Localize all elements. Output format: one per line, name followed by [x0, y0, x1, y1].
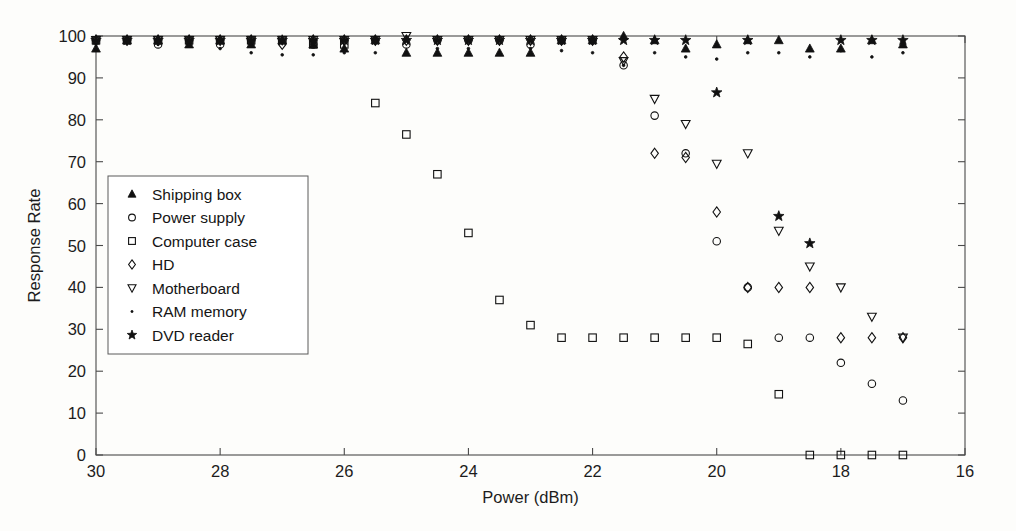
data-point: [403, 131, 410, 138]
data-point: [744, 340, 751, 347]
data-point: [527, 321, 534, 328]
y-tick-label: 0: [77, 446, 86, 464]
x-tick-label: 16: [956, 462, 974, 480]
y-tick-label: 10: [68, 404, 86, 422]
data-point: [774, 227, 783, 235]
data-point: [498, 51, 501, 54]
legend-label: Power supply: [152, 209, 245, 226]
data-point: [374, 51, 377, 54]
data-point: [805, 238, 815, 248]
data-point: [774, 211, 784, 221]
legend-marker-icon: [131, 310, 133, 312]
data-point: [746, 51, 749, 54]
y-tick-label: 100: [58, 27, 86, 45]
data-point: [805, 44, 814, 52]
data-point: [775, 391, 782, 398]
data-point: [651, 334, 658, 341]
data-point: [712, 160, 721, 168]
data-point: [867, 313, 876, 321]
data-point: [529, 47, 532, 50]
data-point: [589, 334, 596, 341]
data-point: [840, 49, 843, 52]
data-point: [713, 207, 720, 217]
data-point: [899, 397, 906, 404]
data-point: [681, 120, 690, 128]
data-point: [837, 359, 844, 366]
y-axis-label: Response Rate: [25, 189, 43, 303]
y-tick-label: 80: [68, 111, 86, 129]
data-point: [775, 334, 782, 341]
data-point: [806, 334, 813, 341]
scatter-plot: 30282624222018160102030405060708090100 S…: [0, 0, 1016, 531]
data-point: [805, 263, 814, 271]
data-point: [808, 56, 811, 59]
x-tick-label: 28: [211, 462, 229, 480]
data-point: [902, 51, 905, 54]
data-point: [560, 49, 563, 52]
data-point: [405, 51, 408, 54]
data-point: [775, 282, 782, 292]
data-point: [712, 40, 721, 48]
data-point: [836, 284, 845, 292]
data-point: [713, 334, 720, 341]
legend-label: Shipping box: [152, 186, 242, 203]
x-tick-label: 22: [583, 462, 601, 480]
x-axis-label: Power (dBm): [482, 488, 578, 506]
data-point: [711, 87, 721, 97]
data-point: [281, 54, 284, 57]
data-point: [684, 56, 687, 59]
data-point: [744, 284, 751, 291]
data-point: [372, 99, 379, 106]
data-point: [777, 51, 780, 54]
data-point: [591, 51, 594, 54]
data-point: [651, 148, 658, 158]
data-point: [837, 333, 844, 343]
data-point: [682, 334, 689, 341]
data-point: [219, 47, 222, 50]
y-tick-label: 60: [68, 195, 86, 213]
data-point: [343, 51, 346, 54]
data-point: [467, 47, 470, 50]
x-tick-label: 20: [708, 462, 726, 480]
legend-label: HD: [152, 256, 174, 273]
data-point: [250, 51, 253, 54]
legend-label: Computer case: [152, 233, 257, 250]
y-tick-label: 30: [68, 320, 86, 338]
data-point: [558, 334, 565, 341]
data-point: [436, 47, 439, 50]
data-point: [868, 380, 875, 387]
data-point: [774, 36, 783, 44]
x-tick-label: 18: [832, 462, 850, 480]
data-point: [620, 334, 627, 341]
chart-legend[interactable]: Shipping boxPower supplyComputer caseHDM…: [108, 176, 308, 354]
data-point: [496, 296, 503, 303]
data-point: [871, 56, 874, 59]
data-point: [713, 238, 720, 245]
data-point: [715, 58, 718, 61]
data-point: [650, 95, 659, 103]
y-tick-label: 50: [68, 237, 86, 255]
y-tick-label: 70: [68, 153, 86, 171]
data-point: [434, 171, 441, 178]
data-point: [312, 54, 315, 57]
chart-figure: 30282624222018160102030405060708090100 S…: [0, 0, 1016, 531]
data-point: [868, 333, 875, 343]
legend-label: RAM memory: [152, 303, 247, 320]
data-point: [465, 229, 472, 236]
data-point: [651, 112, 658, 119]
y-tick-label: 20: [68, 362, 86, 380]
data-point: [653, 51, 656, 54]
y-tick-label: 40: [68, 278, 86, 296]
data-point: [743, 150, 752, 158]
x-tick-label: 24: [459, 462, 477, 480]
legend-label: DVD reader: [152, 327, 234, 344]
x-tick-label: 30: [87, 462, 105, 480]
legend-label: Motherboard: [152, 280, 240, 297]
x-tick-label: 26: [335, 462, 353, 480]
data-point: [806, 282, 813, 292]
data-point: [681, 44, 690, 52]
y-tick-label: 90: [68, 69, 86, 87]
data-point: [622, 64, 625, 67]
